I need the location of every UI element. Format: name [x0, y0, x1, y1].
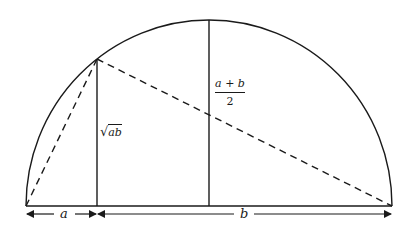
label-a: a	[60, 207, 68, 220]
arithmetic-mean-numerator: a + b	[215, 77, 245, 93]
am-gm-diagram	[0, 0, 413, 234]
label-b: b	[240, 207, 248, 220]
arithmetic-mean-label: a + b 2	[215, 77, 245, 108]
geometric-mean-radicand: ab	[108, 124, 122, 139]
geometric-mean-label: √ab	[100, 124, 122, 139]
dashed-chord-left	[26, 59, 97, 206]
arithmetic-mean-denominator: 2	[215, 93, 245, 108]
